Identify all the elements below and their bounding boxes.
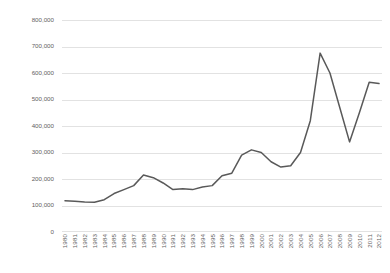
x-axis-tick-label: 1987 [131, 234, 137, 273]
y-axis-tick-label: 200,000 [0, 176, 54, 182]
x-axis-tick-label: 2006 [318, 234, 324, 273]
x-axis-tick-label: 2008 [337, 234, 343, 273]
y-axis-tick-label: 800,000 [0, 17, 54, 23]
x-axis-tick-label: 1980 [62, 234, 68, 273]
x-axis-tick-label: 1991 [170, 234, 176, 273]
x-axis-tick-label: 1994 [200, 234, 206, 273]
x-axis-tick-label: 2012 [376, 234, 382, 273]
x-axis-tick-label: 1995 [210, 234, 216, 273]
y-axis-labels: 800,000700,000600,000500,000400,000300,0… [0, 0, 390, 273]
x-axis-tick-label: 1986 [121, 234, 127, 273]
x-axis-tick-label: 1997 [229, 234, 235, 273]
x-axis-tick-label: 1984 [102, 234, 108, 273]
x-axis-labels: 1980198119821983198419851986198719881989… [62, 234, 382, 273]
x-axis-tick-label: 1989 [151, 234, 157, 273]
y-axis-tick-label: 700,000 [0, 43, 54, 49]
y-axis-tick-label: 300,000 [0, 149, 54, 155]
y-axis-tick-label: 0 [0, 229, 54, 235]
x-axis-tick-label: 2011 [367, 234, 373, 273]
x-axis-tick-label: 1996 [219, 234, 225, 273]
x-axis-tick-label: 2000 [259, 234, 265, 273]
x-axis-tick-label: 2007 [327, 234, 333, 273]
y-axis-tick-label: 400,000 [0, 123, 54, 129]
x-axis-tick-label: 1985 [111, 234, 117, 273]
x-axis-tick-label: 2009 [347, 234, 353, 273]
y-axis-tick-label: 600,000 [0, 70, 54, 76]
x-axis-tick-label: 1988 [141, 234, 147, 273]
y-axis-tick-label: 500,000 [0, 96, 54, 102]
line-chart: 800,000700,000600,000500,000400,000300,0… [0, 0, 390, 273]
x-axis-tick-label: 2005 [308, 234, 314, 273]
x-axis-tick-label: 2004 [298, 234, 304, 273]
x-axis-tick-label: 1992 [180, 234, 186, 273]
x-axis-tick-label: 1998 [239, 234, 245, 273]
y-axis-tick-label: 100,000 [0, 202, 54, 208]
x-axis-tick-label: 1993 [190, 234, 196, 273]
x-axis-tick-label: 2001 [268, 234, 274, 273]
x-axis-tick-label: 1999 [249, 234, 255, 273]
x-axis-tick-label: 1981 [72, 234, 78, 273]
x-axis-tick-label: 1990 [161, 234, 167, 273]
x-axis-tick-label: 1983 [92, 234, 98, 273]
x-axis-tick-label: 1982 [82, 234, 88, 273]
x-axis-tick-label: 2010 [357, 234, 363, 273]
x-axis-tick-label: 2003 [288, 234, 294, 273]
x-axis-tick-label: 2002 [278, 234, 284, 273]
